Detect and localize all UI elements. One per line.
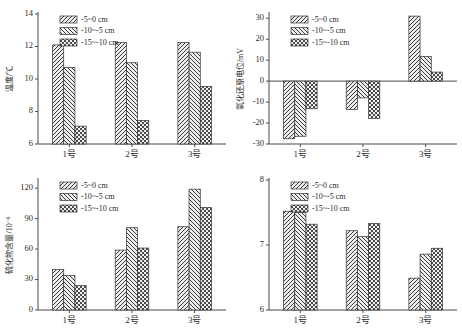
bar-temperature-3号-s1 <box>178 42 189 144</box>
bar-temperature-2号-s3 <box>138 120 149 144</box>
x-tick-label-temperature-0: 1号 <box>63 149 77 159</box>
bar-ph-3号-s1 <box>409 278 420 310</box>
chart-svg-ph: 6781号2号3号-5~0 cm-10~-5 cm-15~-10 cm <box>231 166 462 332</box>
y-tick-label-temperature-2: 10 <box>25 73 34 83</box>
bar-temperature-2号-s1 <box>115 42 126 144</box>
y-tick-label-sulfide-2: 60 <box>25 243 34 253</box>
legend-swatch-redox-s1 <box>291 16 308 23</box>
bar-redox-1号-s2 <box>295 81 306 136</box>
y-tick-label-redox-6: 30 <box>256 12 265 22</box>
chart-panel-temperature: 681012141号2号3号温度/℃-5~0 cm-10~-5 cm-15~-1… <box>0 0 231 166</box>
bar-ph-1号-s2 <box>295 213 306 311</box>
bar-redox-1号-s1 <box>284 81 295 139</box>
bar-temperature-1号-s3 <box>75 126 86 144</box>
bar-ph-2号-s2 <box>357 237 368 310</box>
x-tick-label-redox-1: 2号 <box>356 149 370 159</box>
x-tick-label-temperature-1: 2号 <box>125 149 139 159</box>
legend-label-redox-s2: -10~-5 cm <box>312 26 346 35</box>
legend-label-ph-s2: -10~-5 cm <box>312 192 346 201</box>
legend-swatch-ph-s1 <box>291 182 308 189</box>
bar-sulfide-2号-s1 <box>115 250 126 310</box>
figure-four-panel-bar-charts: 681012141号2号3号温度/℃-5~0 cm-10~-5 cm-15~-1… <box>0 0 462 332</box>
bar-ph-1号-s1 <box>284 211 295 310</box>
legend-label-sulfide-s2: -10~-5 cm <box>81 192 115 201</box>
bar-temperature-3号-s3 <box>200 86 211 144</box>
bar-temperature-1号-s1 <box>53 45 64 144</box>
bar-sulfide-3号-s2 <box>189 189 200 310</box>
legend-swatch-redox-s2 <box>291 28 308 35</box>
bar-ph-3号-s2 <box>420 254 431 310</box>
y-tick-label-ph-1: 7 <box>260 239 264 249</box>
legend-label-temperature-s1: -5~0 cm <box>81 15 109 24</box>
bar-redox-3号-s1 <box>409 16 420 81</box>
x-tick-label-sulfide-2: 3号 <box>188 315 202 325</box>
legend-swatch-ph-s2 <box>291 194 308 201</box>
legend-swatch-redox-s3 <box>291 39 308 46</box>
legend-label-redox-s1: -5~0 cm <box>312 15 340 24</box>
chart-svg-redox-potential: -30-20-1001020301号2号3号氧化还原电位/mV-5~0 cm-1… <box>231 0 462 166</box>
y-tick-label-ph-2: 8 <box>260 174 264 184</box>
x-tick-label-sulfide-1: 2号 <box>125 315 139 325</box>
bar-temperature-3号-s2 <box>189 52 200 144</box>
bar-redox-2号-s3 <box>369 81 380 118</box>
y-tick-label-sulfide-4: 120 <box>20 182 33 192</box>
y-tick-label-sulfide-0: 0 <box>29 304 33 314</box>
y-tick-label-temperature-0: 6 <box>29 138 33 148</box>
y-tick-label-redox-2: -10 <box>253 96 264 106</box>
legend-swatch-sulfide-s2 <box>60 194 77 201</box>
legend-swatch-sulfide-s3 <box>60 205 77 212</box>
legend-swatch-temperature-s2 <box>60 28 77 35</box>
bar-redox-3号-s2 <box>420 57 431 82</box>
y-tick-label-temperature-1: 8 <box>29 105 33 115</box>
legend-swatch-ph-s3 <box>291 205 308 212</box>
y-tick-label-redox-1: -20 <box>253 117 264 127</box>
bar-temperature-1号-s2 <box>64 68 75 144</box>
legend-label-redox-s3: -15~-10 cm <box>312 38 350 47</box>
chart-svg-temperature: 681012141号2号3号温度/℃-5~0 cm-10~-5 cm-15~-1… <box>0 0 231 166</box>
legend-swatch-temperature-s1 <box>60 16 77 23</box>
bar-sulfide-3号-s3 <box>200 207 211 310</box>
bar-sulfide-1号-s2 <box>64 275 75 310</box>
y-tick-label-redox-0: -30 <box>253 138 264 148</box>
y-tick-label-redox-5: 20 <box>256 33 265 43</box>
bar-redox-3号-s3 <box>431 72 442 81</box>
legend-label-temperature-s3: -15~-10 cm <box>81 38 119 47</box>
y-tick-label-sulfide-3: 90 <box>25 213 34 223</box>
bar-ph-3号-s3 <box>431 248 442 310</box>
bar-sulfide-1号-s1 <box>53 269 64 310</box>
bar-redox-1号-s3 <box>306 81 317 109</box>
bar-sulfide-2号-s2 <box>126 228 137 310</box>
x-tick-label-temperature-2: 3号 <box>188 149 202 159</box>
y-axis-title-temperature: 温度/℃ <box>4 66 14 92</box>
x-tick-label-ph-2: 3号 <box>419 315 433 325</box>
legend-label-temperature-s2: -10~-5 cm <box>81 26 115 35</box>
y-tick-label-temperature-3: 12 <box>25 40 34 50</box>
x-tick-label-ph-0: 1号 <box>294 315 308 325</box>
y-tick-label-temperature-4: 14 <box>25 8 34 18</box>
y-tick-label-redox-3: 0 <box>260 75 264 85</box>
legend-label-ph-s1: -5~0 cm <box>312 181 340 190</box>
chart-panel-ph: 6781号2号3号-5~0 cm-10~-5 cm-15~-10 cm <box>231 166 462 332</box>
y-tick-label-ph-0: 6 <box>260 304 264 314</box>
y-axis-title-redox: 氧化还原电位/mV <box>235 48 245 110</box>
legend-label-sulfide-s1: -5~0 cm <box>81 181 109 190</box>
y-tick-label-redox-4: 10 <box>256 54 265 64</box>
bar-ph-2号-s3 <box>369 224 380 310</box>
legend-label-sulfide-s3: -15~-10 cm <box>81 204 119 213</box>
bar-ph-2号-s1 <box>346 231 357 310</box>
y-axis-title-sulfide: 硫化物含量/10⁻⁶ <box>4 216 14 273</box>
chart-svg-sulfide-content: 03060901201号2号3号硫化物含量/10⁻⁶-5~0 cm-10~-5 … <box>0 166 231 332</box>
chart-panel-sulfide-content: 03060901201号2号3号硫化物含量/10⁻⁶-5~0 cm-10~-5 … <box>0 166 231 332</box>
bar-redox-2号-s1 <box>346 81 357 109</box>
bar-redox-2号-s2 <box>357 81 368 98</box>
bar-sulfide-3号-s1 <box>178 227 189 310</box>
bar-temperature-2号-s2 <box>126 63 137 144</box>
y-tick-label-sulfide-1: 30 <box>25 273 34 283</box>
legend-swatch-sulfide-s1 <box>60 182 77 189</box>
bar-sulfide-1号-s3 <box>75 286 86 310</box>
legend-swatch-temperature-s3 <box>60 39 77 46</box>
chart-panel-redox-potential: -30-20-1001020301号2号3号氧化还原电位/mV-5~0 cm-1… <box>231 0 462 166</box>
x-tick-label-sulfide-0: 1号 <box>63 315 77 325</box>
legend-label-ph-s3: -15~-10 cm <box>312 204 350 213</box>
x-tick-label-redox-0: 1号 <box>294 149 308 159</box>
